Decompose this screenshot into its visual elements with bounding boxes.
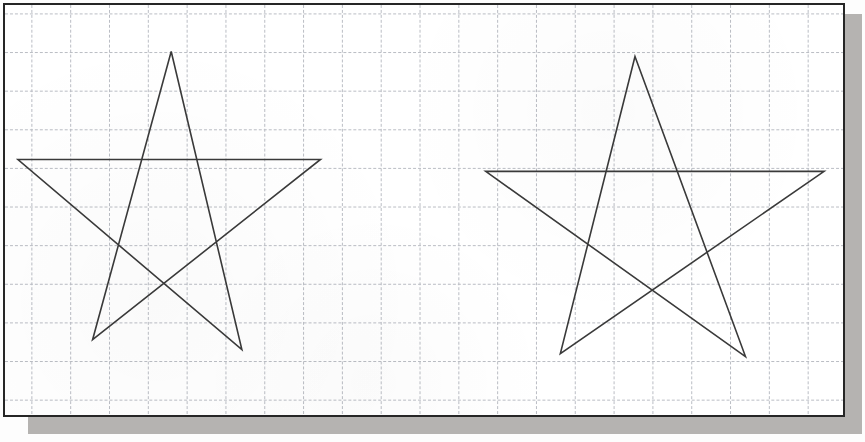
- graph-paper-sheet: [3, 3, 845, 417]
- scanned-worksheet-page: [0, 0, 865, 442]
- graph-paper-grid: [5, 5, 843, 415]
